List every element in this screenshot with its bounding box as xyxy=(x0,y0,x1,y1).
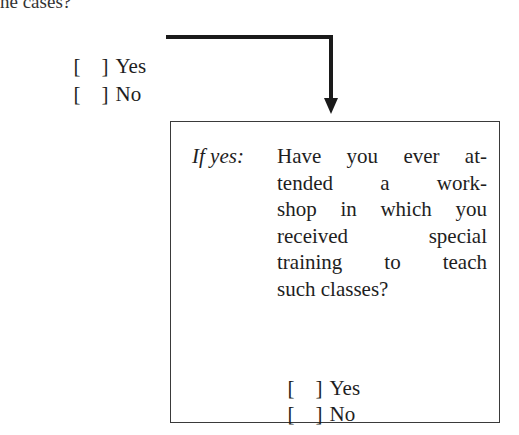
question-line: training to teach xyxy=(277,249,487,276)
followup-option-no[interactable]: [ ]No xyxy=(277,378,355,426)
question-line: received special xyxy=(277,223,487,250)
question-line: tended a work- xyxy=(277,170,487,197)
question-line: shop in which you xyxy=(277,196,487,223)
followup-question: Have you ever at- tended a work- shop in… xyxy=(277,143,487,302)
question-line: such classes? xyxy=(277,276,487,303)
option-label: No xyxy=(330,402,356,426)
question-line: Have you ever at- xyxy=(277,143,487,170)
checkbox-bracket[interactable]: [ ] xyxy=(288,402,330,426)
condition-label: If yes: xyxy=(192,143,244,169)
